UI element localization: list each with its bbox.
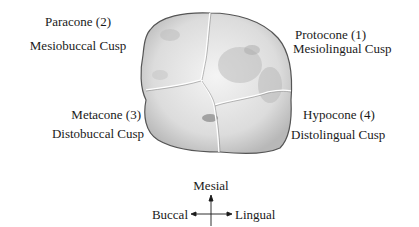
- distobuccal-cusp-label: Distobuccal Cusp: [20, 126, 144, 141]
- buccal-direction-label: Buccal: [130, 207, 188, 222]
- lingual-direction-label: Lingual: [235, 207, 275, 222]
- mesial-direction-label: Mesial: [181, 178, 241, 193]
- orientation-compass: [191, 195, 232, 226]
- protocone-label: Protocone (1): [295, 27, 366, 42]
- distolingual-cusp-label: Distolingual Cusp: [291, 127, 385, 142]
- mesiobuccal-cusp-label: Mesiobuccal Cusp: [18, 38, 138, 53]
- hypocone-label: Hypocone (4): [303, 107, 375, 122]
- mesiolingual-cusp-label: Mesiolingual Cusp: [293, 41, 392, 56]
- paracone-label: Paracone (2): [28, 14, 128, 29]
- metacone-label: Metacone (3): [20, 107, 141, 122]
